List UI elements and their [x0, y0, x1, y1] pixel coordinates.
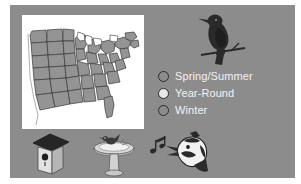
legend-label-spring-summer: Spring/Summer — [175, 70, 253, 83]
perched-bird-icon — [193, 10, 255, 68]
slide-canvas: Spring/Summer Year-Round Winter — [0, 0, 301, 184]
legend-item-year-round[interactable]: Year-Round — [158, 85, 293, 101]
legend-label-year-round: Year-Round — [175, 87, 234, 100]
birdhouse-icon — [30, 129, 72, 177]
bottom-icon-row — [22, 129, 207, 179]
legend-swatch-winter — [158, 105, 169, 116]
legend-swatch-year-round — [158, 88, 169, 99]
legend-item-spring-summer[interactable]: Spring/Summer — [158, 68, 293, 84]
singing-bird-icon — [148, 129, 210, 175]
birdbath-icon — [90, 129, 138, 179]
legend-item-winter[interactable]: Winter — [158, 102, 293, 118]
legend-swatch-spring-summer — [158, 71, 169, 82]
map-panel[interactable] — [22, 15, 144, 129]
legend-label-winter: Winter — [175, 104, 207, 117]
range-map-graphic — [22, 15, 144, 129]
legend: Spring/Summer Year-Round Winter — [158, 68, 293, 119]
slide-background: Spring/Summer Year-Round Winter — [10, 5, 295, 178]
